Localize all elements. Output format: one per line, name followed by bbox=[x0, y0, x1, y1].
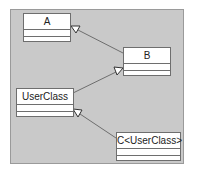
generalization-arrow-icon bbox=[114, 67, 123, 75]
attributes-section bbox=[117, 149, 180, 156]
class-name: C<UserClass> bbox=[117, 133, 180, 149]
edge-b-to-a bbox=[78, 30, 123, 53]
class-name: UserClass bbox=[17, 89, 73, 105]
operations-section bbox=[124, 71, 170, 76]
class-box-b[interactable]: B bbox=[123, 47, 171, 76]
class-box-userclass[interactable]: UserClass bbox=[16, 88, 74, 117]
generalization-arrow-icon bbox=[71, 26, 80, 33]
operations-section bbox=[117, 156, 180, 161]
operations-section bbox=[17, 112, 73, 117]
class-name: B bbox=[124, 48, 170, 64]
edge-c-to-userclass bbox=[80, 114, 116, 138]
operations-section bbox=[24, 37, 70, 42]
edge-userclass-to-b bbox=[73, 72, 116, 93]
attributes-section bbox=[24, 30, 70, 37]
generalization-arrow-icon bbox=[73, 109, 82, 117]
attributes-section bbox=[17, 105, 73, 112]
class-box-a[interactable]: A bbox=[23, 13, 71, 42]
attributes-section bbox=[124, 64, 170, 71]
class-box-c-userclass[interactable]: C<UserClass> bbox=[116, 132, 181, 161]
class-name: A bbox=[24, 14, 70, 30]
